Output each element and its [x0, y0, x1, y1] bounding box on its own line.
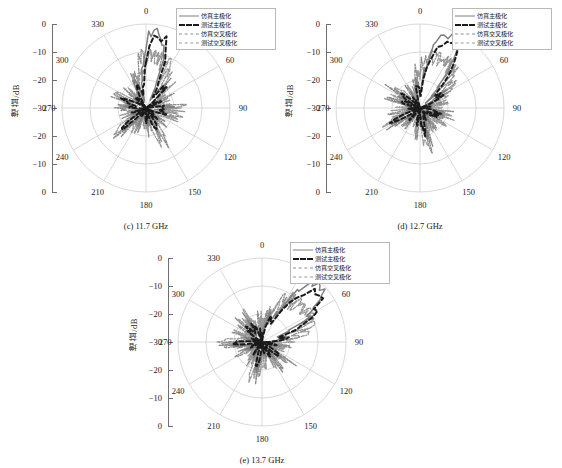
angle-tick-label: 330: [207, 254, 220, 263]
angle-tick-label: 240: [56, 152, 69, 161]
radial-tick-label: 0: [316, 188, 320, 197]
legend-item: 仿真主极化: [179, 11, 272, 20]
radial-axis-label-d: 增益/dB: [286, 84, 295, 117]
radial-tick-label: −10: [33, 48, 46, 57]
panel-e: 增益/dB 0−10−20−30−20−100 0306090120150180…: [110, 238, 400, 468]
legend-d: 仿真主极化测试主极化仿真交叉极化测试交叉极化: [452, 8, 552, 50]
angle-tick-label: 330: [91, 20, 104, 29]
angle-tick-label: 0: [418, 7, 422, 16]
radial-tick-label: −10: [149, 282, 162, 291]
angle-tick-label: 120: [224, 152, 237, 161]
angle-tick-label: 240: [330, 152, 343, 161]
figure-radiation-patterns: 增益/dB 0−10−20−30−20−100 0306090120150180…: [0, 0, 562, 468]
legend-label: 测试主极化: [315, 254, 345, 263]
legend-item: 仿真交叉极化: [293, 263, 386, 272]
legend-c: 仿真主极化测试主极化仿真交叉极化测试交叉极化: [176, 8, 276, 50]
angle-tick-label: 150: [462, 188, 475, 197]
caption-d: (d) 12.7 GHz: [334, 222, 506, 231]
legend-item: 测试主极化: [179, 20, 272, 29]
radial-tick-label: 0: [158, 254, 162, 263]
radial-tick-label: 0: [158, 422, 162, 431]
radial-tick-label: 0: [316, 20, 320, 29]
radial-tick: [326, 136, 331, 137]
radial-tick: [52, 24, 57, 25]
legend-item: 测试交叉极化: [293, 272, 386, 281]
angle-tick-label: 270: [159, 338, 172, 347]
angle-tick-label: 210: [207, 422, 220, 431]
radial-tick-label: −20: [307, 132, 320, 141]
radial-tick: [326, 164, 331, 165]
angle-tick-label: 60: [342, 289, 351, 298]
radial-tick-label: −20: [149, 310, 162, 319]
legend-swatch-solid: [179, 11, 199, 20]
radial-tick: [52, 192, 57, 193]
legend-swatch-dashdot: [293, 263, 313, 272]
radial-tick: [326, 52, 331, 53]
radial-tick-label: −20: [33, 132, 46, 141]
angle-tick-label: 180: [256, 435, 269, 444]
legend-swatch-dashed-thick: [179, 20, 199, 29]
radial-tick: [168, 286, 173, 287]
legend-item: 仿真主极化: [293, 245, 386, 254]
legend-swatch-solid: [455, 11, 475, 20]
angle-tick-label: 150: [304, 422, 317, 431]
legend-label: 测试主极化: [201, 20, 231, 29]
radial-tick-label: −10: [307, 48, 320, 57]
angle-tick-label: 0: [260, 241, 264, 250]
legend-swatch-dashed-thick: [293, 254, 313, 263]
radial-tick: [168, 258, 173, 259]
radial-tick: [52, 80, 57, 81]
radial-axis-label-e: 增益/dB: [130, 318, 139, 351]
angle-tick-label: 300: [330, 55, 343, 64]
legend-item: 测试交叉极化: [179, 38, 272, 47]
angle-tick-label: 90: [239, 104, 248, 113]
radial-tick-label: 0: [42, 188, 46, 197]
legend-swatch-dashdot: [455, 29, 475, 38]
radial-tick-label: −10: [149, 394, 162, 403]
legend-label: 仿真交叉极化: [315, 263, 351, 272]
caption-e: (e) 13.7 GHz: [176, 456, 348, 465]
angle-tick-label: 180: [414, 201, 427, 210]
trace-meas-main-pol: [232, 289, 323, 366]
legend-label: 测试交叉极化: [315, 272, 351, 281]
legend-item: 测试主极化: [293, 254, 386, 263]
legend-item: 测试交叉极化: [455, 38, 548, 47]
angle-tick-label: 240: [172, 386, 185, 395]
angle-tick-label: 210: [91, 188, 104, 197]
angle-tick-label: 300: [172, 289, 185, 298]
legend-item: 测试主极化: [455, 20, 548, 29]
angle-tick-label: 90: [355, 338, 364, 347]
panel-d: 增益/dB 0−10−20−30−20−100 0306090120150180…: [280, 0, 562, 240]
radial-tick: [326, 24, 331, 25]
angle-tick-label: 60: [500, 55, 509, 64]
angle-tick-label: 120: [498, 152, 511, 161]
radial-tick-label: −20: [307, 76, 320, 85]
legend-swatch-dashdot: [179, 29, 199, 38]
radial-tick: [168, 398, 173, 399]
angle-tick-label: 330: [365, 20, 378, 29]
radial-tick: [52, 136, 57, 137]
angle-tick-label: 270: [43, 104, 56, 113]
radial-tick: [168, 426, 173, 427]
legend-swatch-dashed-thick: [455, 20, 475, 29]
legend-item: 仿真主极化: [455, 11, 548, 20]
radial-tick: [168, 370, 173, 371]
angle-tick-label: 300: [56, 55, 69, 64]
radial-tick-label: −20: [33, 76, 46, 85]
radial-tick-label: −10: [307, 160, 320, 169]
caption-c: (c) 11.7 GHz: [60, 222, 232, 231]
radial-tick-label: −20: [149, 366, 162, 375]
angle-tick-label: 270: [317, 104, 330, 113]
radial-tick: [52, 164, 57, 165]
legend-label: 测试交叉极化: [201, 38, 237, 47]
angle-tick-label: 90: [513, 104, 522, 113]
legend-label: 仿真交叉极化: [477, 29, 513, 38]
legend-swatch-dashdot2: [455, 38, 475, 47]
legend-item: 仿真交叉极化: [179, 29, 272, 38]
legend-swatch-solid: [293, 245, 313, 254]
angle-tick-label: 150: [188, 188, 201, 197]
legend-swatch-dashdot2: [293, 272, 313, 281]
legend-label: 仿真交叉极化: [201, 29, 237, 38]
legend-item: 仿真交叉极化: [455, 29, 548, 38]
radial-tick: [168, 314, 173, 315]
